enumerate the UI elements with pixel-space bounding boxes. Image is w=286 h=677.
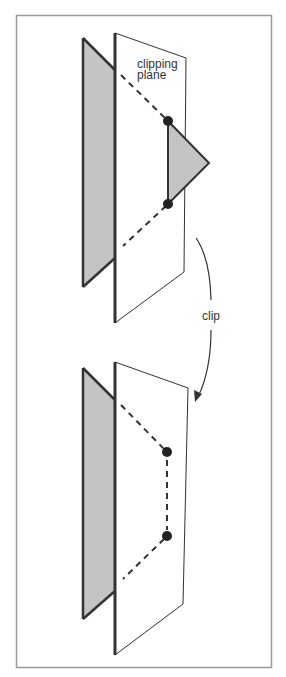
- polygon-back-part: [83, 38, 115, 287]
- polygon-front-part: [168, 121, 209, 204]
- clipping-plane-after: [115, 362, 188, 655]
- clip-arrow-curve-lower: [198, 330, 211, 397]
- intersection-point-bottom-after: [162, 531, 172, 541]
- intersection-point-top: [163, 116, 173, 126]
- clipped-polygon-back-part: [83, 368, 115, 619]
- clip-arrow-curve-upper: [196, 238, 211, 300]
- intersection-point-bottom: [163, 199, 173, 209]
- clip-arrow: clip: [194, 238, 220, 402]
- clip-label: clip: [202, 309, 220, 323]
- clipping-plane-label-line2: plane: [137, 68, 167, 82]
- clipping-diagram: clipping plane clip: [0, 0, 286, 677]
- panel-after-clip: [83, 362, 188, 655]
- panel-before-clip: clipping plane: [83, 33, 209, 323]
- intersection-point-top-after: [162, 447, 172, 457]
